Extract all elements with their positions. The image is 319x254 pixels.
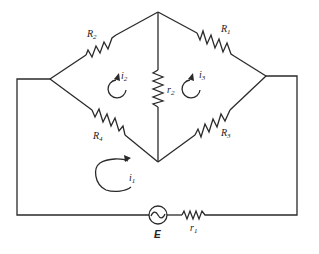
loop-arrow-i3 [182,80,200,98]
loop-i3: i3 [182,69,206,98]
label-i2: i2 [121,70,128,83]
wire-left-top-1 [50,55,86,79]
wire-outer-right [207,76,297,215]
loop-arrow-i1 [96,159,131,191]
resistor-r2: r2 [153,70,175,107]
wire-bottom-right-1 [158,135,195,162]
label-R2: R2 [86,28,97,41]
resistor-R1: R1 [197,23,234,56]
sine-wave-icon [151,212,165,218]
loop-i1: i1 [96,155,136,191]
wire-left-top-2 [116,12,158,35]
label-R3: R3 [220,127,231,140]
wire-top-right-1 [158,12,197,33]
label-r2: r2 [167,84,175,97]
resistor-R4: R4 [92,109,125,143]
ac-source: E [149,206,167,240]
resistor-R2: R2 [86,28,116,57]
resistor-r1: r1 [182,211,207,235]
wire-outer-left [17,79,149,215]
loop-i2: i2 [108,70,128,98]
wire-left-bottom-1 [50,79,92,110]
label-r1: r1 [190,222,197,235]
label-E: E [154,229,161,240]
wires [17,12,297,215]
resistor-R3: R3 [195,110,231,140]
wire-top-right-2 [234,56,266,76]
label-i1: i1 [129,172,135,185]
circuit-diagram: R2 R1 R4 R3 r2 r1 E i2 i3 i1 [0,0,319,254]
label-R4: R4 [92,130,103,143]
label-R1: R1 [220,23,231,36]
wire-bottom-right-2 [230,76,266,110]
label-i3: i3 [199,69,206,82]
